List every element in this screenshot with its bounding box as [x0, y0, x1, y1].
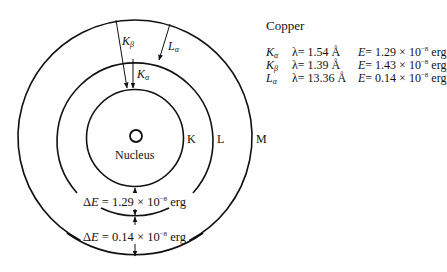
kl-energy-gap-label: ΔE = 1.29 × 10−8 erg — [83, 196, 186, 209]
lm-energy-gap-label: ΔE = 0.14 × 10−8 erg — [83, 231, 186, 244]
energy-value: = 1.29 × 10 — [99, 195, 160, 209]
k-shell-label: K — [187, 133, 196, 145]
nucleus-label: Nucleus — [115, 149, 154, 161]
energy-unit: erg — [167, 195, 186, 209]
l-shell-label: L — [217, 133, 224, 145]
k-alpha-symbol: K — [137, 67, 145, 81]
line-name: Lα — [266, 72, 277, 86]
delta-symbol: Δ — [83, 195, 91, 209]
k-beta-arrow — [116, 20, 127, 88]
legend-title: Copper — [266, 18, 304, 34]
energy-symbol: E — [91, 230, 99, 244]
k-beta-label: Kβ — [122, 35, 134, 47]
k-alpha-sub: α — [145, 73, 149, 82]
wavelength: λ= 13.36 Å — [292, 72, 346, 85]
energy-value: = 0.14 × 10 — [99, 230, 160, 244]
copper-legend: Copper Kα λ= 1.54 Å E= 1.29 × 10−8 erg K… — [266, 18, 304, 85]
energy: E= 0.14 × 10−8 erg — [358, 72, 446, 87]
legend-row-l-alpha: Lα λ= 13.36 Å E= 0.14 × 10−8 erg — [266, 72, 304, 85]
energy-unit: erg — [167, 230, 186, 244]
nucleus-icon — [130, 130, 142, 142]
k-shell — [87, 90, 184, 187]
delta-symbol: Δ — [83, 230, 91, 244]
k-alpha-label: Kα — [137, 68, 149, 80]
l-alpha-symbol: L — [168, 39, 175, 53]
l-alpha-label: Lα — [168, 40, 179, 52]
energy-symbol: E — [91, 195, 99, 209]
energy-exponent: −8 — [160, 195, 167, 203]
k-beta-sub: β — [130, 40, 134, 49]
k-beta-symbol: K — [122, 34, 130, 48]
l-alpha-sub: α — [175, 45, 179, 54]
m-shell-label: M — [256, 133, 267, 145]
energy-exponent: −8 — [160, 230, 167, 238]
l-shell — [57, 63, 213, 193]
